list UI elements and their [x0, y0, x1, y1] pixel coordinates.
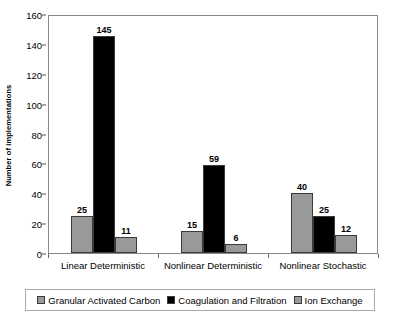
bar: 11: [115, 237, 137, 253]
legend-swatch-icon: [37, 296, 45, 304]
bar: 59: [203, 165, 225, 253]
legend-label: Coagulation and Filtration: [178, 295, 286, 306]
y-axis-tick-label: 40: [31, 189, 42, 200]
bar: 6: [225, 244, 247, 253]
bar: 145: [93, 36, 115, 253]
y-axis-tick-labels: 020406080100120140160: [18, 10, 46, 260]
y-axis-title-container: Number of implementations: [0, 0, 18, 270]
y-axis-tick-mark: [42, 44, 46, 45]
y-axis-tick-label: 160: [26, 10, 42, 21]
x-axis-category-label: Linear Deterministic: [61, 260, 145, 271]
x-axis-category-label: Nonlinear Deterministic: [164, 260, 262, 271]
bar-group: 402512: [269, 16, 379, 253]
y-axis-tick-mark: [42, 15, 46, 16]
plot-area: 251451115596402512: [48, 15, 378, 254]
y-axis-tick-label: 100: [26, 99, 42, 110]
legend-swatch-icon: [294, 296, 302, 304]
x-axis-tick-mark: [158, 254, 159, 258]
bar-chart-figure: Number of implementations 02040608010012…: [0, 0, 397, 322]
legend-label: Granular Activated Carbon: [48, 295, 160, 306]
bar-group: 15596: [159, 16, 269, 253]
bar-value-label: 11: [121, 226, 131, 236]
y-axis-title: Number of implementations: [5, 84, 14, 186]
plot-inner: 251451115596402512: [49, 16, 377, 253]
bar: 12: [335, 235, 357, 253]
x-axis-tick-mark: [378, 254, 379, 258]
bar-value-label: 40: [297, 182, 307, 192]
bar: 15: [181, 231, 203, 253]
y-axis-tick-mark: [42, 194, 46, 195]
bar-value-label: 59: [209, 154, 219, 164]
y-axis-tick-label: 120: [26, 69, 42, 80]
y-axis-tick-mark: [42, 254, 46, 255]
x-axis-category-label: Nonlinear Stochastic: [279, 260, 366, 271]
y-axis-tick-label: 80: [31, 129, 42, 140]
legend-label: Ion Exchange: [305, 295, 363, 306]
y-axis-tick-label: 20: [31, 219, 42, 230]
y-axis-tick-label: 140: [26, 39, 42, 50]
legend-entry[interactable]: Granular Activated Carbon: [37, 295, 160, 306]
y-axis-tick-mark: [42, 224, 46, 225]
bar-value-label: 25: [77, 205, 87, 215]
y-axis-tick-label: 60: [31, 159, 42, 170]
y-axis-tick-mark: [42, 74, 46, 75]
y-axis-tick-mark: [42, 104, 46, 105]
legend-entry[interactable]: Coagulation and Filtration: [167, 295, 286, 306]
bar: 25: [71, 216, 93, 253]
bar-value-label: 15: [187, 220, 197, 230]
bar: 40: [291, 193, 313, 253]
legend-swatch-icon: [167, 296, 175, 304]
bar-group: 2514511: [49, 16, 159, 253]
y-axis-tick-mark: [42, 134, 46, 135]
bar-value-label: 145: [96, 25, 111, 35]
bar-value-label: 12: [341, 224, 351, 234]
chart-legend: Granular Activated CarbonCoagulation and…: [25, 289, 375, 311]
bar: 25: [313, 216, 335, 253]
legend-entry[interactable]: Ion Exchange: [294, 295, 363, 306]
y-axis-tick-mark: [42, 164, 46, 165]
bar-value-label: 6: [233, 233, 238, 243]
x-axis-tick-mark: [268, 254, 269, 258]
x-axis-tick-mark: [48, 254, 49, 258]
bar-value-label: 25: [319, 205, 329, 215]
